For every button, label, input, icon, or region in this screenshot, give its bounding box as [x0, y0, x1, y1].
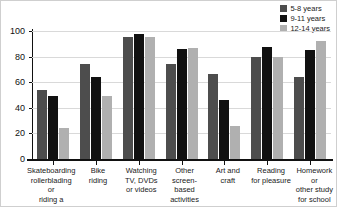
bar-group	[288, 31, 331, 159]
bar-groups	[32, 31, 331, 159]
x-axis-tick-mark	[160, 161, 203, 165]
x-axis-label-line: riding	[77, 176, 118, 186]
x-axis-label-line: or videos	[121, 185, 162, 195]
bar	[305, 50, 315, 159]
x-axis-label-line: riding a scooter	[27, 195, 75, 208]
legend-swatch-icon	[280, 15, 287, 22]
chart-legend: 5-8 years 9-11 years 12-14 years	[280, 4, 330, 33]
x-axis-label: WatchingTV, DVDsor videos	[120, 166, 163, 207]
x-axis-ticks	[32, 161, 331, 165]
legend-item-5-8-years: 5-8 years	[280, 4, 330, 13]
y-axis: 020406080100	[1, 31, 32, 159]
bar	[91, 77, 101, 159]
x-axis-label-line: Bike	[77, 166, 118, 176]
bar	[80, 64, 90, 159]
y-axis-tick-label: 20	[15, 129, 25, 138]
x-axis-label: Art andcraft	[206, 166, 249, 207]
legend-label: 5-8 years	[290, 4, 321, 13]
y-axis-tick-label: 0	[20, 155, 25, 164]
bar	[59, 128, 69, 159]
bar	[316, 41, 326, 159]
bar	[166, 64, 176, 159]
x-axis-label-line: other study	[294, 185, 335, 195]
x-axis-tick-mark	[117, 161, 160, 165]
y-axis-tick-label: 60	[15, 78, 25, 87]
bar	[37, 90, 47, 159]
bar	[208, 74, 218, 159]
x-axis-tick-mark	[288, 161, 331, 165]
x-axis-label: Readingfor pleasure	[249, 166, 292, 207]
y-axis-tick-label: 100	[10, 27, 25, 36]
bar	[219, 100, 229, 159]
y-axis-tick-label: 40	[15, 103, 25, 112]
legend-label: 9-11 years	[290, 14, 325, 23]
legend-item-9-11-years: 9-11 years	[280, 14, 330, 23]
x-axis-label-line: Skateboarding	[27, 166, 75, 176]
bar-group	[246, 31, 289, 159]
x-axis-tick-mark	[32, 161, 75, 165]
bar-group	[75, 31, 118, 159]
bar	[102, 96, 112, 159]
x-axis-label-line: Reading	[250, 166, 291, 176]
bar-chart: 5-8 years 9-11 years 12-14 years 0204060…	[0, 0, 337, 207]
x-axis-label-line: for school	[294, 195, 335, 205]
x-axis-label-line: Art and	[207, 166, 248, 176]
bar-group	[160, 31, 203, 159]
y-axis-tick-label: 80	[15, 52, 25, 61]
x-axis-label-line: craft	[207, 176, 248, 186]
bar-group	[203, 31, 246, 159]
x-axis-tick-mark	[203, 161, 246, 165]
bar	[262, 47, 272, 159]
bar	[123, 37, 133, 159]
bar	[134, 34, 144, 159]
bar	[294, 77, 304, 159]
x-axis-labels: Skateboardingrollerblading orriding a sc…	[26, 166, 336, 207]
x-axis-label-line: rollerblading or	[27, 176, 75, 195]
x-axis-label-line: Homework or	[294, 166, 335, 185]
bar	[230, 126, 240, 159]
bar	[188, 48, 198, 159]
x-axis-label: Skateboardingrollerblading orriding a sc…	[26, 166, 76, 207]
bar	[251, 57, 261, 159]
bar-group	[117, 31, 160, 159]
x-axis-label-line: Watching	[121, 166, 162, 176]
x-axis-label: Homework orother studyfor school	[293, 166, 336, 207]
x-axis-label-line: Other	[164, 166, 205, 176]
bar	[145, 37, 155, 159]
x-axis-label-line: screen-based	[164, 176, 205, 195]
x-axis-label: Otherscreen-basedactivities	[163, 166, 206, 207]
x-axis-label-line: for pleasure	[250, 176, 291, 186]
bar	[273, 57, 283, 159]
bar	[177, 49, 187, 159]
x-axis-label: Bikeriding	[76, 166, 119, 207]
x-axis-tick-mark	[75, 161, 118, 165]
x-axis-label-line: activities	[164, 195, 205, 205]
legend-swatch-icon	[280, 5, 287, 12]
x-axis-label-line: TV, DVDs	[121, 176, 162, 186]
x-axis-tick-mark	[246, 161, 289, 165]
plot-area	[32, 31, 331, 159]
bar-group	[32, 31, 75, 159]
bar	[48, 96, 58, 159]
